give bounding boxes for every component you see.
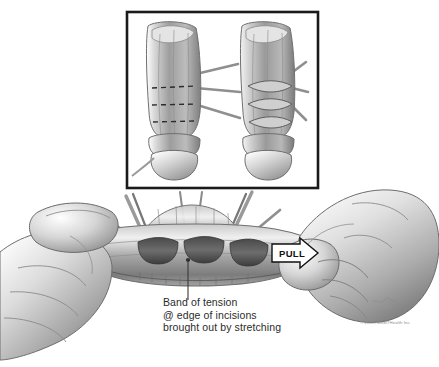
caption-line-1: Band of tension (163, 296, 281, 309)
pull-arrow-label: PULL (279, 248, 305, 259)
caption-line-2: @ edge of incisions (163, 309, 281, 322)
copyright-notice: © 2005, MedlTHealth Inc. (360, 320, 411, 325)
callout-caption: Band of tension @ edge of incisions brou… (163, 296, 281, 334)
incision-group-main (138, 237, 268, 267)
opened-incisions-right (248, 81, 292, 128)
illustration-page: Band of tension @ edge of incisions brou… (0, 0, 439, 367)
inset-panel (127, 12, 318, 188)
caption-line-3: brought out by stretching (163, 321, 281, 334)
